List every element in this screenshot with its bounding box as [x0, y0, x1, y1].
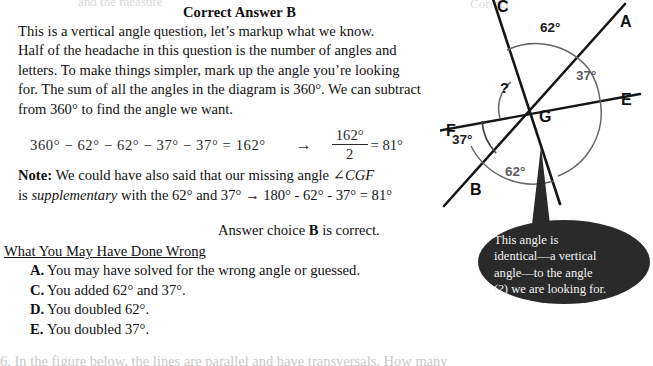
wrong-item-text-c: You added 62° and 37°. — [47, 282, 186, 298]
wrong-item-label-d: D. — [30, 300, 47, 320]
note-line-2: is supplementary with the 62° and 37° → … — [18, 186, 458, 206]
diagram-label-a: A — [620, 13, 632, 31]
diagram-label-g: G — [539, 108, 551, 126]
explanation-line-3: letters. To make things simpler, mark up… — [18, 61, 480, 80]
note-line-1-rest: We could have also said that our missing… — [52, 167, 345, 183]
callout-text: This angle is identical—a vertical angle… — [494, 232, 646, 298]
note-line-2-italic: supplementary — [31, 187, 117, 203]
note-line-2-a: is — [18, 187, 31, 203]
note-line-1: Note: We could have also said that our m… — [18, 166, 458, 186]
diagram-label-e: E — [621, 91, 632, 109]
diagram-angle-unknown: ? — [500, 79, 509, 96]
answer-choice-prefix: Answer choice — [218, 222, 309, 238]
answer-choice-suffix: is correct. — [319, 222, 380, 238]
explanation-line-2: Half of the headache in this question is… — [18, 41, 480, 60]
list-item: E.You doubled 37°. — [30, 320, 360, 340]
list-item: A.You may have solved for the wrong angl… — [30, 261, 360, 281]
explanation-line-4: for. The sum of all the angles in the di… — [18, 80, 480, 99]
wrong-section-heading: What You May Have Done Wrong — [4, 243, 206, 260]
explanation-line-1: This is a vertical angle question, let’s… — [18, 22, 480, 41]
callout-line-2: identical—a vertical — [494, 248, 646, 264]
answer-choice-letter: B — [309, 222, 319, 238]
explanation-line-5: from 360° to find the angle we want. — [18, 100, 480, 119]
cut-off-text-bottom: 6. In the figure below, the lines are pa… — [0, 353, 620, 366]
list-item: D.You doubled 62°. — [30, 300, 360, 320]
diagram-angle-bottom: 62° — [505, 164, 525, 179]
diagram-angle-left: 37° — [452, 132, 472, 147]
diagram-angle-top: 62° — [540, 20, 560, 35]
explanation-paragraph: This is a vertical angle question, let’s… — [18, 22, 480, 119]
wrong-section-list: A.You may have solved for the wrong angl… — [30, 261, 360, 339]
equation-result: = 81° — [371, 137, 403, 154]
callout-bubble: This angle is identical—a vertical angle… — [478, 206, 650, 304]
equation-fraction: 162° 2 — [332, 128, 368, 162]
wrong-item-text-a: You may have solved for the wrong angle … — [47, 262, 360, 278]
note-block: Note: We could have also said that our m… — [18, 166, 458, 205]
arc-top-62 — [507, 44, 588, 68]
diagram-angle-right: 37° — [576, 68, 596, 83]
wrong-item-text-e: You doubled 37°. — [47, 321, 149, 337]
diagram-label-b: B — [470, 181, 482, 199]
arc-right-lower — [558, 100, 601, 176]
fraction-denominator: 2 — [346, 145, 353, 162]
callout-line-4: (?) we are looking for. — [494, 281, 646, 297]
correct-answer-heading: Correct Answer B — [183, 4, 296, 21]
note-label: Note: — [18, 167, 52, 183]
equation-arrow: → — [296, 136, 312, 154]
note-angle-name: CGF — [345, 167, 374, 183]
wrong-item-label-a: A. — [30, 261, 47, 281]
note-line-2-b: with the 62° and 37° → 180° - 62° - 37° … — [117, 187, 392, 203]
wrong-item-label-c: C. — [30, 281, 47, 301]
fraction-numerator: 162° — [332, 128, 368, 145]
diagram-label-c: C — [497, 0, 509, 16]
wrong-item-text-d: You doubled 62°. — [47, 301, 149, 317]
equation-row: 360° − 62° − 62° − 37° − 37° = 162° → 16… — [30, 128, 403, 162]
wrong-item-label-e: E. — [30, 320, 47, 340]
answer-explanation-page: and the measure Correct 6. In the figure… — [0, 0, 653, 366]
callout-line-3: angle—to the angle — [494, 265, 646, 281]
list-item: C.You added 62° and 37°. — [30, 281, 360, 301]
equation-left-side: 360° − 62° − 62° − 37° − 37° = 162° — [30, 137, 266, 154]
answer-choice-statement: Answer choice B is correct. — [218, 222, 380, 239]
arc-left-37 — [482, 121, 496, 153]
callout-line-1: This angle is — [494, 232, 646, 248]
